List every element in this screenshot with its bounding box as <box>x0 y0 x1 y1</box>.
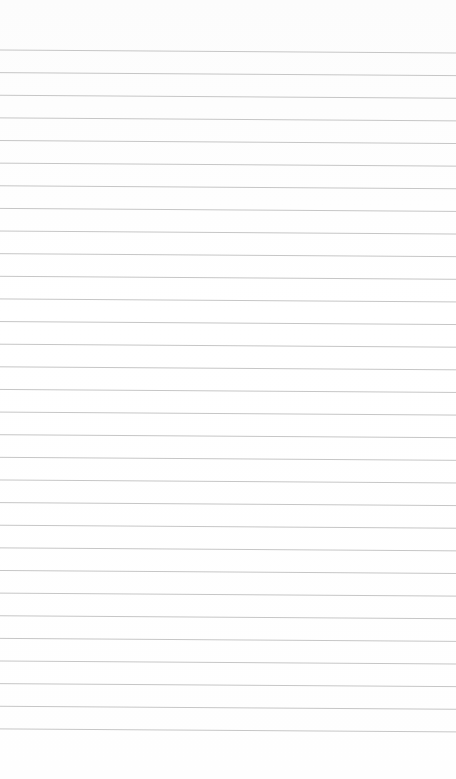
ruled-line <box>0 73 456 76</box>
ruled-line <box>0 276 456 279</box>
ruled-line <box>0 367 456 370</box>
ruled-line <box>0 322 456 325</box>
ruled-line <box>0 570 456 573</box>
ruled-line <box>0 661 456 664</box>
ruled-line <box>0 435 456 438</box>
ruled-line <box>0 186 456 189</box>
ruled-line <box>0 729 456 732</box>
ruled-line <box>0 706 456 709</box>
ruled-line <box>0 254 456 257</box>
ruled-line <box>0 231 456 234</box>
ruled-line <box>0 299 456 302</box>
lined-paper <box>0 0 456 779</box>
ruled-line <box>0 525 456 528</box>
ruled-line <box>0 638 456 641</box>
ruled-line <box>0 503 456 506</box>
ruled-line <box>0 344 456 347</box>
ruled-line <box>0 548 456 551</box>
ruled-line <box>0 95 456 98</box>
ruled-line <box>0 389 456 392</box>
ruled-lines <box>0 0 456 779</box>
ruled-line <box>0 163 456 166</box>
ruled-line <box>0 50 456 53</box>
ruled-line <box>0 208 456 211</box>
ruled-line <box>0 684 456 687</box>
ruled-line <box>0 118 456 121</box>
ruled-line <box>0 616 456 619</box>
ruled-line <box>0 141 456 144</box>
ruled-line <box>0 457 456 460</box>
ruled-line <box>0 412 456 415</box>
ruled-line <box>0 593 456 596</box>
ruled-line <box>0 480 456 483</box>
